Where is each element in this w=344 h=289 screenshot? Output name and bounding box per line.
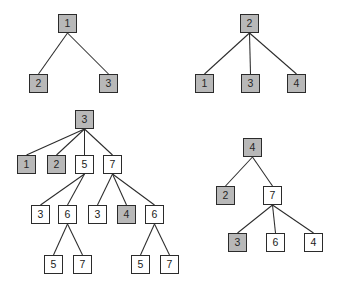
tree-node: 2 — [29, 74, 48, 93]
tree-node-label: 3 — [38, 209, 44, 220]
tree-node: 2 — [240, 14, 259, 33]
tree-edge — [250, 33, 297, 74]
tree-edge — [273, 205, 314, 233]
tree-node: 3 — [75, 110, 94, 129]
tree-node-label: 6 — [152, 209, 158, 220]
tree-node-label: 6 — [65, 209, 71, 220]
tree-node-label: 7 — [167, 259, 173, 270]
tree-edge — [39, 33, 68, 74]
tree-node: 6 — [58, 205, 77, 224]
tree-node-label: 1 — [24, 159, 30, 170]
tree-edge — [113, 174, 155, 205]
tree-node-label: 1 — [65, 18, 71, 29]
tree-node: 3 — [88, 205, 107, 224]
tree-node: 4 — [304, 233, 323, 252]
tree-node-label: 7 — [80, 259, 86, 270]
tree-node-label: 4 — [294, 78, 300, 89]
tree-node: 4 — [243, 138, 262, 157]
tree-node: 1 — [58, 14, 77, 33]
tree-node: 3 — [99, 74, 118, 93]
tree-edge — [155, 224, 170, 255]
tree-node: 5 — [131, 255, 150, 274]
tree-node: 4 — [287, 74, 306, 93]
tree-node: 2 — [216, 186, 235, 205]
tree-edge — [238, 205, 273, 233]
tree-diagram-figure: 123213431257363465757427364 — [0, 0, 344, 289]
tree-node: 1 — [17, 155, 36, 174]
tree-node-label: 3 — [82, 114, 88, 125]
tree-edge — [98, 174, 113, 205]
tree-node: 4 — [117, 205, 136, 224]
tree-edge — [250, 33, 251, 74]
tree-node-label: 5 — [82, 159, 88, 170]
tree-node: 2 — [47, 155, 66, 174]
tree-node-label: 7 — [110, 159, 116, 170]
tree-edge — [226, 157, 253, 186]
tree-node: 1 — [195, 74, 214, 93]
tree-node-label: 2 — [247, 18, 253, 29]
tree-edge — [273, 205, 276, 233]
tree-node: 5 — [75, 155, 94, 174]
tree-node-label: 7 — [270, 190, 276, 201]
tree-node-label: 3 — [235, 237, 241, 248]
tree-edges-layer — [0, 0, 344, 289]
tree-edge — [205, 33, 250, 74]
tree-node-label: 2 — [36, 78, 42, 89]
tree-edge — [57, 129, 85, 155]
tree-node-label: 3 — [95, 209, 101, 220]
tree-node-label: 5 — [138, 259, 144, 270]
tree-node-label: 4 — [311, 237, 317, 248]
tree-node-label: 2 — [54, 159, 60, 170]
tree-node-label: 5 — [51, 259, 57, 270]
tree-node: 7 — [73, 255, 92, 274]
tree-node-label: 2 — [223, 190, 229, 201]
tree-edge — [41, 174, 85, 205]
tree-node-label: 1 — [202, 78, 208, 89]
tree-node-label: 4 — [124, 209, 130, 220]
tree-node: 6 — [145, 205, 164, 224]
tree-edge — [141, 224, 155, 255]
tree-node-label: 3 — [106, 78, 112, 89]
tree-node: 6 — [266, 233, 285, 252]
tree-edge — [27, 129, 85, 155]
tree-node: 7 — [103, 155, 122, 174]
tree-node: 7 — [160, 255, 179, 274]
tree-node-label: 3 — [248, 78, 254, 89]
tree-edge — [253, 157, 273, 186]
tree-node-label: 4 — [250, 142, 256, 153]
tree-node-label: 6 — [273, 237, 279, 248]
tree-node: 3 — [241, 74, 260, 93]
tree-node: 3 — [228, 233, 247, 252]
tree-edge — [68, 174, 85, 205]
tree-edge — [85, 129, 113, 155]
tree-node: 5 — [44, 255, 63, 274]
tree-edge — [68, 224, 83, 255]
tree-node: 7 — [263, 186, 282, 205]
tree-edge — [54, 224, 68, 255]
tree-edge — [68, 33, 109, 74]
tree-node: 3 — [31, 205, 50, 224]
